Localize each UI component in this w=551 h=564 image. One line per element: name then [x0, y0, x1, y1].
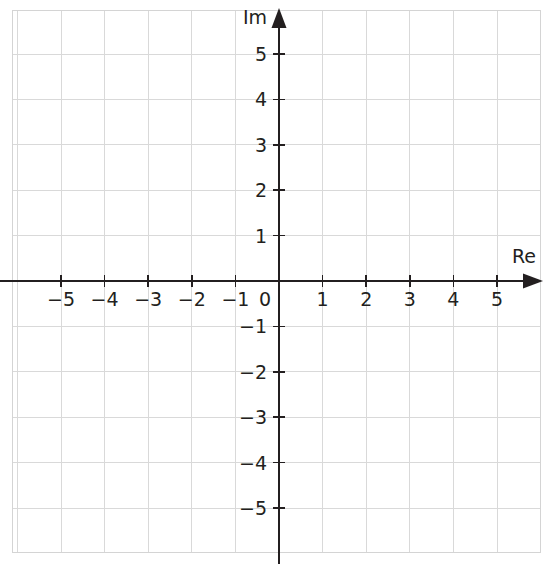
tick-label-y: −3: [239, 406, 267, 428]
tick-label-y: −5: [239, 497, 267, 519]
tick-label-x: 1: [317, 288, 329, 310]
complex-plane-figure: −5−4−3−2−11234554321−1−2−3−4−5 0 Im Re: [0, 0, 551, 564]
tick-label-x: 2: [360, 288, 372, 310]
tick-label-y: −1: [239, 315, 267, 337]
tick-label-y: 3: [255, 134, 267, 156]
tick-label-y: 1: [255, 225, 267, 247]
tick-label-y: 5: [255, 43, 267, 65]
tick-label-x: −2: [178, 288, 206, 310]
tick-label-x: −1: [221, 288, 249, 310]
coordinate-plane-svg: −5−4−3−2−11234554321−1−2−3−4−5 0 Im Re: [0, 0, 551, 564]
tick-label-x: −5: [47, 288, 75, 310]
origin-label: 0: [259, 288, 271, 310]
tick-label-x: −3: [134, 288, 162, 310]
tick-label-x: −4: [91, 288, 119, 310]
axes: [0, 8, 543, 564]
tick-label-y: 2: [255, 179, 267, 201]
im-axis-label: Im: [243, 6, 267, 28]
tick-label-x: 4: [447, 288, 459, 310]
tick-label-y: −4: [239, 452, 267, 474]
tick-label-x: 5: [491, 288, 503, 310]
re-axis-label: Re: [512, 245, 536, 267]
tick-label-y: 4: [255, 88, 267, 110]
tick-label-y: −2: [239, 361, 267, 383]
tick-label-x: 3: [404, 288, 416, 310]
im-axis-arrowhead-icon: [272, 8, 287, 28]
